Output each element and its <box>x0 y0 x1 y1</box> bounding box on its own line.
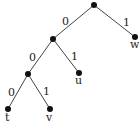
edge-label-n0-n00: 0 <box>29 51 36 64</box>
leaf-label-w: w <box>130 38 139 51</box>
node-n00 <box>25 71 31 77</box>
node-root <box>91 2 97 8</box>
edge-label-n0-u: 1 <box>71 50 78 63</box>
leaf-label-v: v <box>45 111 53 124</box>
edge-root-to-n0 <box>53 5 94 39</box>
edge-label-n00-t: 0 <box>8 86 15 99</box>
node-n0 <box>50 36 56 42</box>
leaf-label-u: u <box>75 74 82 87</box>
edge-label-root-n0: 0 <box>62 15 69 28</box>
binary-tree-diagram: 0 1 0 1 0 1 w u t v <box>0 0 139 125</box>
leaf-label-t: t <box>5 111 10 124</box>
edge-label-root-w: 1 <box>123 16 130 29</box>
edge-label-n00-v: 1 <box>43 85 50 98</box>
